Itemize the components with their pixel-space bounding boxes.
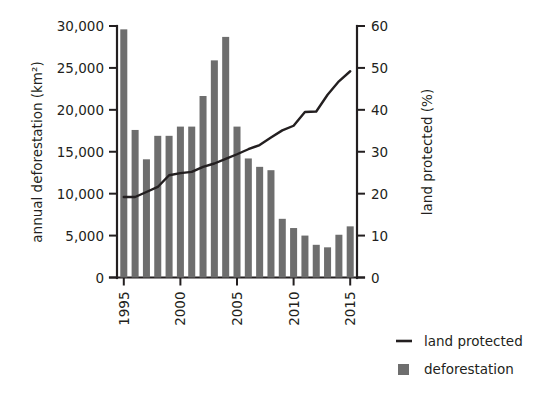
bar — [154, 136, 161, 278]
x-axis-tick-labels: 19952000200520102015 — [116, 292, 358, 326]
legend-item-land-protected: land protected — [396, 333, 523, 349]
left-y-tick-label: 5,000 — [65, 228, 104, 244]
bar — [188, 127, 195, 278]
right-y-axis-ticks — [357, 26, 365, 278]
left-y-tick-label: 10,000 — [57, 186, 104, 202]
bar — [313, 245, 320, 278]
bar — [256, 167, 263, 278]
bar — [335, 235, 342, 278]
left-y-axis-title: annual deforestation (km²) — [29, 61, 45, 242]
left-y-axis: 05,00010,00015,00020,00025,00030,000 ann… — [29, 18, 117, 286]
left-y-axis-tick-labels: 05,00010,00015,00020,00025,00030,000 — [57, 18, 104, 286]
right-y-tick-label: 50 — [371, 60, 388, 76]
bar — [267, 170, 274, 277]
left-y-axis-ticks — [109, 26, 117, 278]
bar — [166, 136, 173, 278]
right-y-tick-label: 30 — [371, 144, 388, 160]
bar — [211, 60, 218, 277]
left-y-tick-label: 25,000 — [57, 60, 104, 76]
chart-legend: land protected deforestation — [396, 333, 523, 377]
right-y-tick-label: 40 — [371, 102, 388, 118]
chart-figure: 05,00010,00015,00020,00025,00030,000 ann… — [0, 0, 542, 396]
legend-item-deforestation: deforestation — [398, 361, 514, 377]
left-y-tick-label: 0 — [95, 270, 104, 286]
bar — [132, 130, 139, 278]
legend-label-deforestation: deforestation — [424, 361, 514, 377]
x-tick-label: 1995 — [116, 292, 132, 326]
right-y-axis-tick-labels: 0102030405060 — [371, 18, 388, 286]
bar — [324, 247, 331, 277]
bar — [177, 127, 184, 278]
deforestation-land-protected-chart: 05,00010,00015,00020,00025,00030,000 ann… — [0, 0, 542, 396]
bar — [233, 127, 240, 278]
right-y-tick-label: 60 — [371, 18, 388, 34]
x-tick-label: 2015 — [342, 292, 358, 326]
bar — [143, 159, 150, 277]
bar — [120, 29, 127, 277]
bar — [245, 158, 252, 277]
x-tick-label: 2000 — [172, 292, 188, 326]
right-y-tick-label: 0 — [371, 270, 380, 286]
bar — [279, 219, 286, 278]
x-axis: 19952000200520102015 — [110, 278, 364, 326]
legend-label-land-protected: land protected — [424, 333, 523, 349]
bar — [347, 226, 354, 277]
right-y-tick-label: 20 — [371, 186, 388, 202]
right-y-axis: 0102030405060 land protected (%) — [357, 18, 435, 286]
bar — [290, 228, 297, 277]
x-tick-label: 2005 — [229, 292, 245, 326]
bar — [200, 96, 207, 278]
left-y-tick-label: 15,000 — [57, 144, 104, 160]
x-tick-label: 2010 — [286, 292, 302, 326]
legend-square-marker — [398, 364, 409, 375]
x-axis-ticks — [124, 278, 350, 286]
right-y-axis-title: land protected (%) — [419, 89, 435, 215]
left-y-tick-label: 30,000 — [57, 18, 104, 34]
left-y-tick-label: 20,000 — [57, 102, 104, 118]
bar — [301, 236, 308, 278]
right-y-tick-label: 10 — [371, 228, 388, 244]
